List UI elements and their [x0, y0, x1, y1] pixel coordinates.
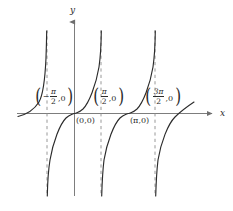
fraction-three-pi-over-2: 3π 2	[153, 88, 165, 105]
fraction-pi-over-2: π 2	[101, 88, 108, 105]
paren-close: )	[118, 88, 124, 105]
tangent-branch-far-right	[156, 102, 194, 196]
fraction-numerator: 3π	[153, 88, 165, 96]
fraction-numerator: π	[101, 88, 108, 96]
y-axis-label: y	[70, 6, 75, 15]
fraction-numerator: π	[50, 88, 57, 96]
label-asymptote-half-pi: ( π 2 ,0 )	[92, 88, 125, 105]
minus-sign: −	[43, 93, 50, 101]
coordinate-tail: ,0	[164, 95, 173, 103]
fraction-denominator: 2	[50, 97, 57, 105]
label-asymptote-three-half-pi: ( 3π 2 ,0 )	[144, 88, 182, 105]
fraction-denominator: 2	[155, 97, 162, 105]
fraction-pi-over-2: π 2	[50, 88, 57, 105]
fraction-denominator: 2	[101, 97, 108, 105]
paren-open: (	[35, 88, 41, 105]
paren-close: )	[67, 88, 73, 105]
paren-open: (	[93, 88, 99, 105]
label-asymptote-neg-half-pi: ( − π 2 ,0 )	[34, 88, 74, 105]
label-intercept-origin: (0,0)	[76, 117, 95, 125]
coordinate-tail: ,0	[57, 95, 66, 103]
tangent-function-figure: y x ( − π 2 ,0 ) ( π 2 ,0 ) (	[0, 0, 233, 211]
paren-open: (	[145, 88, 151, 105]
paren-close: )	[175, 88, 181, 105]
coordinate-tail: ,0	[108, 95, 117, 103]
label-intercept-pi: (π,0)	[130, 117, 149, 125]
x-axis-label: x	[220, 109, 225, 118]
